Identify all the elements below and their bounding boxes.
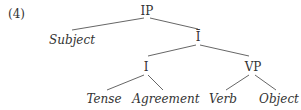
- edge-ip-ibar: [150, 18, 198, 29]
- node-agreement: Agreement: [132, 93, 199, 105]
- node-ip: IP: [141, 5, 154, 17]
- node-subject: Subject: [49, 34, 95, 46]
- example-number: (4): [8, 8, 25, 20]
- edge-vp-verb: [226, 75, 249, 90]
- node-i: I: [144, 61, 149, 73]
- edge-ip-subject: [72, 18, 144, 30]
- edge-i-agreement: [148, 75, 163, 90]
- node-tense: Tense: [86, 93, 121, 105]
- edge-ibar-vp: [200, 45, 249, 56]
- edge-ibar-i: [148, 45, 196, 56]
- node-object: Object: [259, 93, 299, 105]
- edge-i-tense: [107, 75, 144, 90]
- edge-vp-object: [255, 75, 276, 90]
- node-verb: Verb: [209, 93, 237, 105]
- node-ibar: Ī: [196, 31, 201, 43]
- node-vp: VP: [245, 61, 262, 73]
